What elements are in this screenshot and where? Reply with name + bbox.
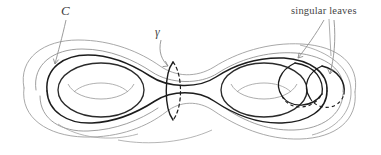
label-curve-gamma: γ: [155, 26, 160, 38]
neck-circle-gamma: [166, 62, 180, 120]
figure-container: singular leaves C γ: [0, 0, 381, 155]
left-hole: [58, 63, 144, 117]
curve-C: [47, 55, 327, 123]
leader-singular-leaves-stem: [329, 19, 331, 56]
right-hole: [221, 63, 307, 117]
genus-two-surface-drawing: [0, 0, 381, 155]
leader-singular-leaf-2: [328, 20, 335, 74]
label-curve-c: C: [61, 4, 70, 17]
left-tube-faint-arc: [58, 124, 212, 143]
inner-tube-outline: [36, 49, 344, 131]
outer-silhouette: [23, 40, 356, 139]
gamma-back-arc: [173, 62, 181, 120]
leader-singular-leaf-1: [298, 20, 324, 58]
label-singular-leaves: singular leaves: [291, 6, 357, 17]
leader-gamma: [160, 40, 168, 67]
